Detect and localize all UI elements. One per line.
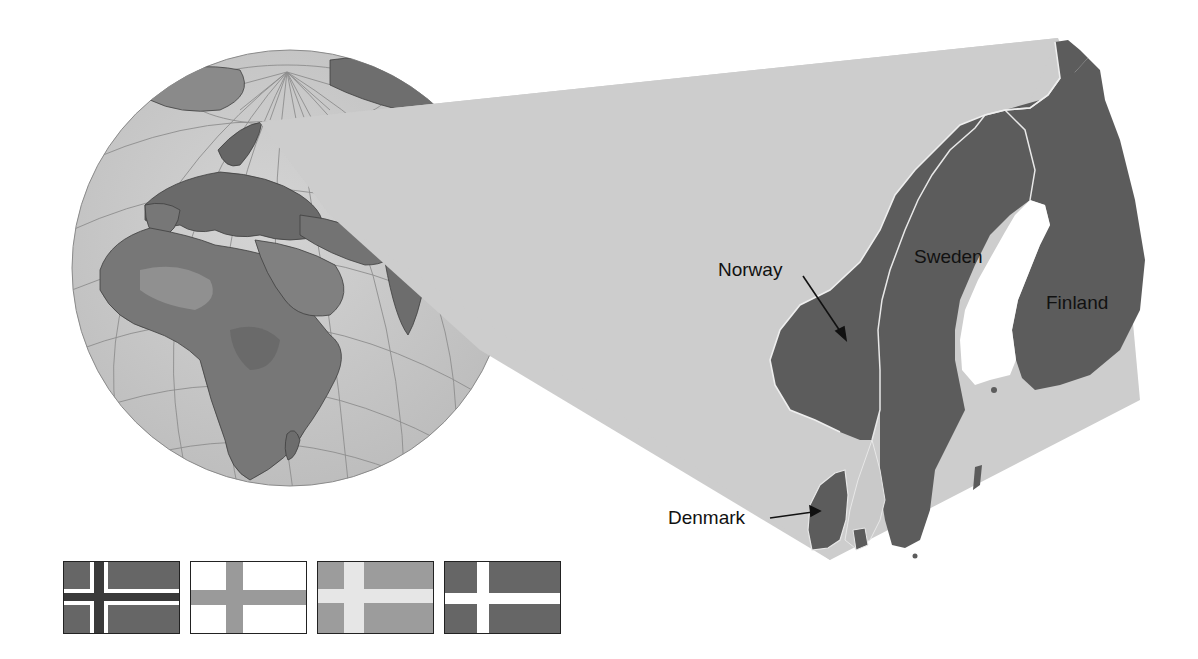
label-finland: Finland (1046, 292, 1108, 314)
label-denmark: Denmark (668, 507, 745, 529)
label-sweden: Sweden (914, 246, 983, 268)
map-figure: Norway Sweden Finland Denmark (0, 0, 1198, 659)
flag-denmark (444, 561, 561, 634)
label-norway: Norway (718, 259, 782, 281)
flag-finland (190, 561, 307, 634)
flag-sweden (317, 561, 434, 634)
flag-norway (63, 561, 180, 634)
